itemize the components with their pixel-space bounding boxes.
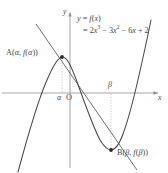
y-axis xyxy=(68,12,71,168)
beta-tick-label: β xyxy=(108,81,112,89)
droplines xyxy=(62,57,111,150)
function-expression: = 2x3 − 3x2 − 6x + 2 xyxy=(83,25,149,35)
x-axis-label: x xyxy=(158,94,161,102)
origin-label: O xyxy=(66,94,72,102)
function-label: y = f(x) xyxy=(77,15,101,23)
point-b-marker xyxy=(109,148,113,152)
point-a-label: A(α, f(α)) xyxy=(6,49,38,57)
alpha-tick-label: α xyxy=(57,94,61,102)
y-axis-arrow xyxy=(68,12,71,17)
point-a-marker xyxy=(60,55,64,59)
y-axis-label: y xyxy=(63,8,66,16)
point-b-label: B(β, f(β)) xyxy=(117,149,148,157)
